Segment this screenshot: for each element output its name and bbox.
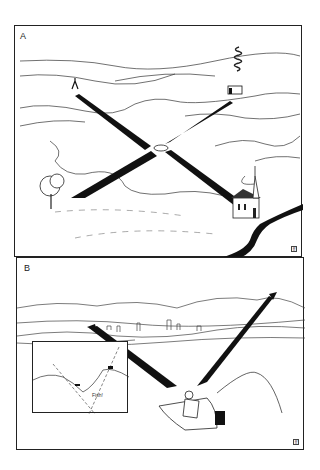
- map-inset: Fish!: [32, 341, 128, 413]
- landscape-illustration: [15, 26, 303, 258]
- artist-mark: ff: [291, 246, 297, 252]
- fish-annotation: Fish!: [92, 392, 103, 398]
- panel-b: B Fish! ff: [16, 257, 304, 450]
- inset-map: [33, 342, 129, 414]
- panel-a: A: [14, 25, 302, 257]
- artist-mark: ff: [293, 439, 299, 445]
